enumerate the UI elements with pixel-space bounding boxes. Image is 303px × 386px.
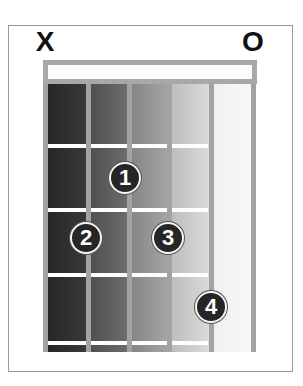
nut-inner [48,65,252,79]
fretboard-column-2 [91,84,129,352]
string-1 [251,84,256,352]
string-4 [127,84,132,352]
string-3 [167,84,172,352]
fretboard-column-3 [132,84,169,352]
open-string-marker: O [238,27,268,57]
finger-1-marker: 1 [109,162,141,194]
fretboard-column-1 [48,84,88,352]
string-5 [86,84,91,352]
muted-string-marker: X [30,27,60,57]
finger-2-marker: 2 [70,222,102,254]
finger-3-marker: 3 [152,222,184,254]
string-6 [43,84,48,352]
finger-4-marker: 4 [195,291,227,323]
nut [43,60,257,84]
